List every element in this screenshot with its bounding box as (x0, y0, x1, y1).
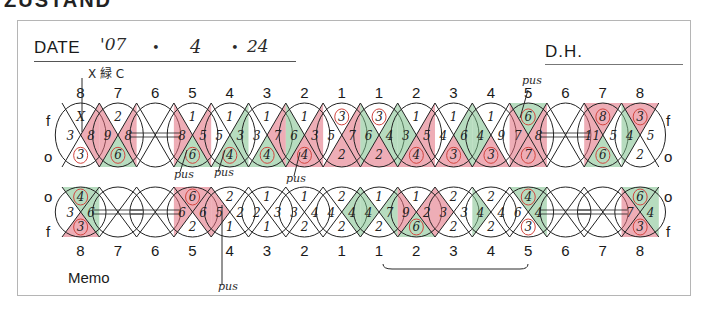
pus-label: pus (218, 280, 238, 293)
pocket-depth-value: 1 (226, 110, 234, 124)
pocket-depth-value: 3 (77, 148, 85, 162)
pocket-depth-value: 6 (290, 129, 298, 143)
pocket-depth-value: 3 (524, 220, 532, 234)
pocket-depth-value: 3 (636, 110, 644, 124)
pocket-depth-value: 4 (225, 148, 234, 162)
pocket-depth-value: 2 (225, 190, 234, 204)
pocket-depth-value: 6 (178, 206, 186, 220)
pocket-depth-value: 2 (113, 110, 122, 124)
pocket-depth-value: 4 (300, 148, 309, 162)
pocket-depth-value: 3 (274, 206, 282, 220)
pocket-depth-value: 2 (188, 220, 197, 234)
pocket-depth-value: 6 (636, 190, 644, 204)
pocket-depth-value: 7 (274, 129, 282, 143)
pocket-depth-value: 5 (647, 129, 655, 143)
pocket-depth-value: 7 (514, 129, 522, 143)
pus-label: pus (214, 166, 234, 179)
pocket-depth-value: 9 (402, 206, 410, 220)
pocket-depth-value: 6 (413, 220, 421, 234)
pocket-depth-value: 3 (460, 206, 468, 220)
pocket-depth-value: 3 (338, 110, 346, 124)
pocket-depth-value: 7 (348, 129, 356, 143)
pocket-depth-value: 7 (626, 206, 634, 220)
pocket-depth-value: 2 (337, 148, 346, 162)
pocket-depth-value: 4 (438, 129, 447, 143)
pocket-depth-value: 4 (646, 206, 655, 220)
pus-label: pus (286, 172, 306, 185)
pocket-depth-value: 7 (386, 206, 394, 220)
pocket-depth-value: 3 (66, 206, 74, 220)
pocket-depth-value: 1 (189, 110, 197, 124)
pocket-depth-value: 6 (189, 148, 197, 162)
pocket-depth-value: 6 (199, 206, 207, 220)
pocket-depth-value: 1 (375, 190, 383, 204)
pocket-depth-value: 4 (476, 206, 485, 220)
pocket-depth-value: 9 (498, 129, 506, 143)
pocket-depth-value: 1 (413, 190, 421, 204)
pocket-depth-value: 3 (236, 129, 244, 143)
pocket-depth-value: 11 (585, 129, 600, 143)
pocket-depth-value: 4 (625, 129, 634, 143)
pocket-depth-value: 1 (263, 220, 271, 234)
pocket-depth-value: 3 (253, 129, 261, 143)
pus-label: pus (522, 74, 542, 87)
pocket-depth-value: 1 (263, 190, 271, 204)
pocket-depth-value: 2 (300, 220, 309, 234)
pocket-depth-value: X (75, 110, 85, 124)
pocket-depth-value: 2 (635, 148, 644, 162)
pocket-depth-value: 2 (486, 190, 495, 204)
pocket-depth-value: 5 (216, 129, 224, 143)
pocket-depth-value: 3 (402, 129, 410, 143)
pocket-depth-value: 4 (364, 206, 373, 220)
pus-label: pus (174, 168, 194, 181)
pocket-depth-value: 4 (523, 190, 532, 204)
pocket-depth-value: 2 (449, 190, 458, 204)
pocket-depth-value: 8 (178, 129, 186, 143)
pocket-depth-value: 6 (524, 110, 532, 124)
pocket-depth-value: 2 (252, 206, 261, 220)
pocket-depth-value: 2 (449, 220, 458, 234)
pocket-depth-value: 6 (189, 190, 197, 204)
pocket-depth-value: 3 (375, 110, 383, 124)
pocket-depth-value: 6 (514, 206, 522, 220)
pocket-depth-value: 4 (476, 129, 485, 143)
pocket-depth-value: 1 (226, 220, 234, 234)
pocket-depth-value: 6 (114, 148, 122, 162)
pocket-depth-value: 3 (311, 129, 319, 143)
pocket-depth-value: 3 (636, 220, 644, 234)
pocket-depth-value: 8 (535, 129, 543, 143)
pocket-depth-value: 8 (599, 110, 607, 124)
pocket-depth-value: 1 (301, 110, 309, 124)
pocket-depth-value: 7 (524, 148, 532, 162)
pocket-depth-value: 4 (326, 206, 335, 220)
pocket-depth-value: 2 (337, 220, 346, 234)
pocket-depth-value: 5 (327, 129, 335, 143)
pocket-depth-value: 9 (104, 129, 112, 143)
pocket-depth-value: 4 (262, 148, 271, 162)
pocket-depth-value: 3 (439, 206, 447, 220)
pocket-depth-value: 6 (365, 129, 373, 143)
pocket-depth-value: 5 (609, 129, 617, 143)
pocket-depth-value: 1 (487, 110, 495, 124)
pocket-depth-value: 8 (125, 129, 133, 143)
pocket-depth-value: 3 (450, 148, 458, 162)
pocket-depth-value: 5 (423, 129, 431, 143)
pocket-depth-value: 1 (301, 190, 309, 204)
upper-jaw-chart: X338269816851453143714633257326414351346… (55, 103, 665, 167)
pocket-depth-value: 1 (450, 110, 458, 124)
lower-jaw-chart: 4336626621521123123422441247169222332244… (55, 187, 665, 237)
pocket-depth-value: 2 (374, 148, 383, 162)
pocket-depth-value: 2 (337, 190, 346, 204)
pocket-depth-value: 3 (77, 220, 85, 234)
pocket-depth-value: 8 (87, 129, 95, 143)
pocket-depth-value: 4 (412, 148, 421, 162)
periodontal-chart: X338269816851453143714633257326414351346… (0, 0, 708, 317)
pocket-depth-value: 4 (76, 190, 85, 204)
pocket-depth-value: 2 (374, 220, 383, 234)
pocket-depth-value: 6 (460, 129, 468, 143)
pocket-depth-value: 3 (290, 206, 298, 220)
pocket-depth-value: 3 (487, 148, 495, 162)
pocket-depth-value: 2 (486, 220, 495, 234)
pocket-depth-value: 6 (599, 148, 607, 162)
pocket-depth-value: 5 (199, 129, 207, 143)
